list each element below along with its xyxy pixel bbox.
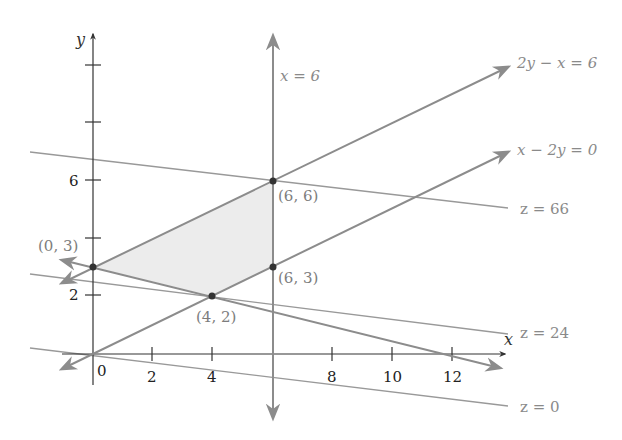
label-point-4-2: (4, 2) [196, 308, 236, 326]
label-z-66: z = 66 [520, 200, 569, 218]
x-tick-label-2: 2 [147, 368, 157, 386]
label-x-eq-6: x = 6 [280, 67, 321, 85]
y-tick-label-6: 6 [69, 172, 79, 190]
x-axis-label: x [504, 330, 513, 349]
y-tick-label-2: 2 [69, 286, 79, 304]
vertex-4-2 [209, 293, 216, 300]
lp-feasible-region-diagram: y x 0 2 4 8 10 12 2 6 x = 6 2y − x = 6 x… [0, 0, 622, 440]
label-2y-minus-x-eq-6: 2y − x = 6 [516, 54, 598, 72]
objective-line-z24 [30, 274, 508, 334]
label-point-0-3: (0, 3) [38, 237, 78, 255]
x-tick-label-0: 0 [97, 362, 107, 380]
label-z-0: z = 0 [520, 398, 560, 416]
label-z-24: z = 24 [520, 324, 569, 342]
vertex-6-6 [270, 178, 277, 185]
y-axis-label: y [75, 30, 86, 49]
vertex-0-3 [90, 264, 97, 271]
label-point-6-6: (6, 6) [278, 187, 318, 205]
x-tick-label-8: 8 [327, 368, 337, 386]
x-tick-label-12: 12 [443, 368, 462, 386]
label-point-6-3: (6, 3) [278, 269, 318, 287]
label-x-minus-2y-eq-0: x − 2y = 0 [517, 141, 598, 159]
vertex-6-3 [270, 264, 277, 271]
x-tick-label-10: 10 [383, 368, 402, 386]
x-tick-label-4: 4 [207, 368, 217, 386]
constraint-line-2y-minus-x-eq-6 [62, 67, 508, 283]
